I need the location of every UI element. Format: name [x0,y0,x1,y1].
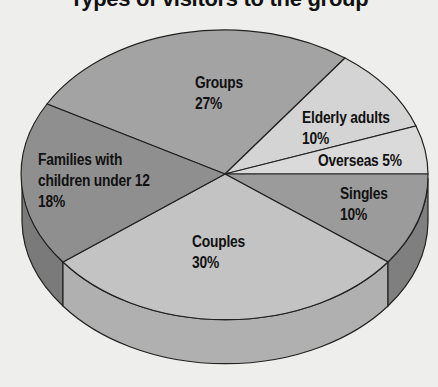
label-singles: Singles 10% [340,183,388,225]
label-groups: Groups 27% [195,72,243,114]
label-couples: Couples 30% [192,231,245,273]
label-families: Families with children under 12 18% [38,149,150,212]
label-overseas: Overseas 5% [318,150,402,171]
label-elderly-adults: Elderly adults 10% [302,107,390,149]
